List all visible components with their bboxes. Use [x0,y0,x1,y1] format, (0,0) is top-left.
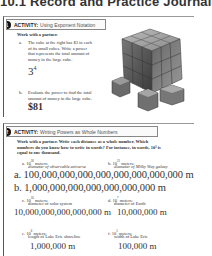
stacked-cubes-image [110,27,192,112]
item-d-desc: diameter of Earth [114,201,146,206]
part-a-line: money in the large cube. [28,57,72,62]
item-f-answer: 100,000 m [118,241,157,251]
activity-label: ACTIVITY: [14,129,38,135]
activity-2-panel: 2 ACTIVITY: Writing Powers as Whole Numb… [3,123,194,256]
activity-1-intro: Work with a partner. [17,32,58,37]
item-f-desc: width of Lake Erie [114,234,148,239]
activity-2-header: 2 ACTIVITY: Writing Powers as Whole Numb… [6,126,158,137]
item-e-answer: 1,000,000 m [30,241,75,251]
part-a-answer: 34 [28,65,37,77]
activity-title: Using Exponent Notation [40,22,95,28]
part-a-letter: a. [19,40,22,45]
item-c-desc: diameter of solar system [28,201,72,206]
item-c-answer: 10,000,000,000,000,000 m [14,207,111,217]
activity-title: Writing Powers as Whole Numbers [40,129,117,135]
item-a-answer: a. 100,000,000,000,000,000,000,000,000 m [14,169,193,180]
activity-number-badge: 2 [6,128,11,136]
activity-number-badge: 1 [6,21,11,29]
part-b-answer: $81 [28,101,43,112]
item-e-desc: length of Lake Erie shoreline [28,234,80,239]
page-title: 10.1 Record and Practice Journal [0,0,196,9]
part-b-letter: b. [19,90,22,95]
item-d-answer: 10,000,000 m [117,207,167,217]
activity-label: ACTIVITY: [14,22,38,28]
activity-1-header: 1 ACTIVITY: Using Exponent Notation [6,19,106,30]
activity-2-intro-line: equal to one thousand. [17,150,60,155]
item-b-answer: b. 1,000,000,000,000,000,000,000 m [14,182,166,193]
